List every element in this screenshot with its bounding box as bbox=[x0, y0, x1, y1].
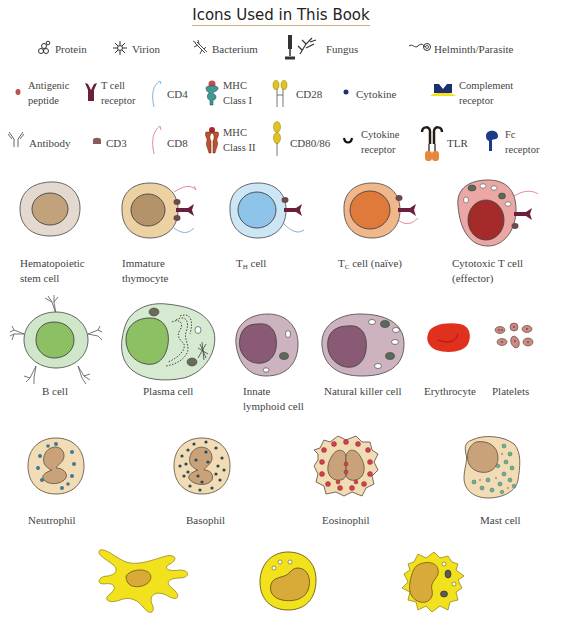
monocyte-icon bbox=[258, 550, 318, 612]
label-line-1: MHC bbox=[223, 78, 252, 93]
basophil-icon bbox=[172, 436, 232, 496]
innate-lymphoid-cell-icon bbox=[230, 310, 302, 380]
legend-label-cd8: CD8 bbox=[167, 137, 188, 150]
legend-label-tlr: TLR bbox=[447, 137, 468, 150]
label-line-2: Class II bbox=[223, 140, 255, 155]
cell-label-th-cell: TH cell bbox=[236, 256, 266, 275]
erythrocyte-icon bbox=[424, 320, 472, 354]
natural-killer-cell-icon bbox=[318, 308, 408, 380]
label-main: T bbox=[338, 257, 345, 269]
legend-label-cd80-86: CD80/86 bbox=[290, 137, 330, 150]
label-rest: cell bbox=[248, 257, 267, 269]
cell-label-erythrocyte: Erythrocyte bbox=[424, 384, 476, 399]
th-cell-icon bbox=[226, 180, 312, 242]
label-line-1: MHC bbox=[223, 125, 255, 140]
hematopoietic-stem-cell-icon bbox=[18, 180, 82, 238]
cell-label-basophil: Basophil bbox=[186, 513, 225, 528]
label-line-2: receptor bbox=[459, 93, 513, 108]
label-line-2: receptor bbox=[101, 93, 135, 108]
cell-label-eosinophil: Eosinophil bbox=[322, 513, 370, 528]
label-line-2: thymocyte bbox=[122, 271, 168, 286]
cell-label-mast-cell: Mast cell bbox=[480, 513, 521, 528]
legend-label-t-cell-receptor: T cellreceptor bbox=[101, 78, 135, 108]
antibody-icon bbox=[8, 130, 24, 148]
legend-label-antibody: Antibody bbox=[29, 137, 71, 150]
cd3-icon bbox=[92, 136, 102, 144]
cytokine-receptor-icon bbox=[343, 137, 353, 145]
cell-label-b-cell: B cell bbox=[42, 384, 68, 399]
cell-label-tc-cell-naive: TC cell (naïve) bbox=[338, 256, 402, 275]
legend-label-cd3: CD3 bbox=[106, 137, 127, 150]
neutrophil-icon bbox=[26, 436, 86, 496]
legend-label-cd28: CD28 bbox=[296, 88, 322, 101]
macrophage-icon bbox=[400, 550, 466, 616]
legend-label-fc-receptor: Fcreceptor bbox=[505, 127, 539, 157]
legend-label-bacterium: Bacterium bbox=[212, 43, 258, 56]
label-line-1: Hematopoietic bbox=[20, 256, 85, 271]
eosinophil-icon bbox=[312, 434, 380, 498]
virion-icon bbox=[112, 40, 128, 56]
label-line-2: receptor bbox=[505, 142, 539, 157]
legend-label-complement-receptor: Complementreceptor bbox=[459, 78, 513, 108]
label-line-2: receptor bbox=[361, 142, 400, 157]
label-line-1: Cytokine bbox=[361, 127, 400, 142]
mast-cell-icon bbox=[458, 434, 522, 500]
legend-label-cytokine-receptor: Cytokinereceptor bbox=[361, 127, 400, 157]
cd28-icon bbox=[272, 80, 288, 108]
label-line-1: Fc bbox=[505, 127, 539, 142]
platelets-icon bbox=[494, 322, 546, 352]
cytokine-icon bbox=[343, 89, 349, 95]
label-line-2: (effector) bbox=[452, 271, 523, 286]
helminth-icon bbox=[408, 41, 432, 53]
legend-label-mhc-class-1: MHCClass I bbox=[223, 78, 252, 108]
plasma-cell-icon bbox=[114, 300, 218, 382]
legend-label-cd4: CD4 bbox=[167, 88, 188, 101]
title-text: Icons Used in This Book bbox=[192, 6, 369, 26]
legend-label-fungus: Fungus bbox=[326, 43, 358, 56]
bacterium-icon bbox=[190, 38, 210, 58]
legend-label-antigenic-peptide: Antigenicpeptide bbox=[28, 78, 69, 108]
fungus-icon bbox=[282, 34, 328, 60]
label-line-1: T cell bbox=[101, 78, 135, 93]
t-cell-receptor-icon bbox=[84, 82, 98, 102]
legend-label-virion: Virion bbox=[132, 43, 160, 56]
cell-label-innate-lymphoid-cell: Innatelymphoid cell bbox=[243, 384, 304, 414]
label-main: T bbox=[236, 257, 243, 269]
protein-icon bbox=[36, 40, 52, 56]
label-line-2: lymphoid cell bbox=[243, 399, 304, 414]
cd80-86-icon bbox=[272, 121, 282, 157]
label-line-1: Complement bbox=[459, 78, 513, 93]
mhc-class-1-icon bbox=[204, 80, 220, 106]
label-line-1: Cytotoxic T cell bbox=[452, 256, 523, 271]
cell-label-natural-killer-cell: Natural killer cell bbox=[324, 384, 402, 399]
legend-label-protein: Protein bbox=[55, 43, 87, 56]
tlr-icon bbox=[420, 124, 444, 162]
tc-cell-naive-icon bbox=[340, 180, 426, 242]
cd4-icon bbox=[150, 80, 162, 108]
immature-thymocyte-icon bbox=[118, 180, 204, 242]
label-line-2: Class I bbox=[223, 93, 252, 108]
page-title: Icons Used in This Book bbox=[0, 6, 562, 24]
complement-receptor-icon bbox=[429, 82, 457, 98]
cd8-icon bbox=[150, 125, 162, 155]
cell-label-plasma-cell: Plasma cell bbox=[143, 384, 193, 399]
dendritic-cell-icon bbox=[96, 546, 196, 622]
cytotoxic-t-cell-icon bbox=[452, 176, 546, 250]
label-line-2: stem cell bbox=[20, 271, 85, 286]
label-rest: cell (naïve) bbox=[349, 257, 402, 269]
legend-label-mhc-class-2: MHCClass II bbox=[223, 125, 255, 155]
label-line-1: Immature bbox=[122, 256, 168, 271]
legend-label-cytokine: Cytokine bbox=[356, 88, 396, 101]
label-line-1: Innate bbox=[243, 384, 304, 399]
label-line-2: peptide bbox=[28, 93, 69, 108]
cell-label-hematopoietic-stem-cell: Hematopoieticstem cell bbox=[20, 256, 85, 286]
cell-label-immature-thymocyte: Immaturethymocyte bbox=[122, 256, 168, 286]
cell-label-neutrophil: Neutrophil bbox=[28, 513, 76, 528]
fc-receptor-icon bbox=[483, 128, 499, 152]
legend-label-helminth: Helminth/Parasite bbox=[434, 43, 513, 56]
b-cell-icon bbox=[8, 294, 104, 384]
cell-label-cytotoxic-t-cell: Cytotoxic T cell(effector) bbox=[452, 256, 523, 286]
mhc-class-2-icon bbox=[204, 126, 220, 154]
cell-label-platelets: Platelets bbox=[492, 384, 529, 399]
label-line-1: Antigenic bbox=[28, 78, 69, 93]
